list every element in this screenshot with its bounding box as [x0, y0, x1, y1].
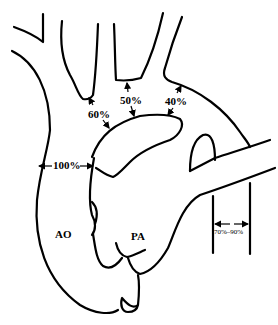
label-descending-pct: 70%–90% — [214, 228, 243, 236]
label-ao: AO — [55, 228, 72, 240]
brachiocephalic-arrow-down — [103, 120, 109, 128]
brachiocephalic-outline-left — [14, 14, 43, 42]
subclavian-arrow-down — [168, 108, 173, 115]
label-brachiocephalic-pct: 60% — [88, 108, 110, 120]
pa-lower — [121, 275, 139, 312]
subclavian-arrow-up — [177, 86, 181, 93]
aorta-outer-left — [12, 51, 118, 313]
carotid-arrow-down — [131, 106, 134, 116]
label-subclavian-pct: 40% — [165, 95, 187, 107]
pa-lobe-2 — [128, 168, 275, 274]
label-ascending-pct: 100% — [53, 159, 81, 171]
brachiocephalic-branch — [61, 21, 98, 99]
pa-lobe-1 — [116, 243, 145, 257]
left-subclavian-branch — [164, 17, 250, 147]
left-carotid-branch — [114, 13, 163, 80]
label-pa: PA — [131, 230, 145, 242]
brachiocephalic-arrow-up — [89, 98, 93, 105]
label-carotid-pct: 50% — [120, 94, 142, 106]
aortic-arch-diagram: 60% 50% 40% 100% AO PA 70%–90% — [0, 0, 278, 325]
carotid-arrow-up — [127, 83, 128, 92]
left-pa-lower-edge — [190, 158, 215, 171]
